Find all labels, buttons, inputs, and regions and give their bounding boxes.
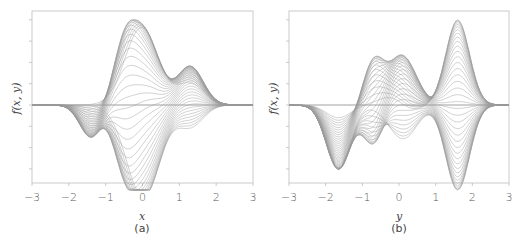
- xtick-label: 3: [506, 191, 513, 204]
- ylabel-a: f(x, y): [10, 79, 23, 119]
- panel-b: f(x, y) −3−2−10123 y (b): [263, 0, 526, 250]
- curve: [32, 25, 253, 127]
- curve: [289, 58, 509, 160]
- xtick-label: −2: [318, 191, 334, 204]
- curve: [289, 56, 509, 158]
- curve: [32, 105, 253, 190]
- plot-frame: [289, 11, 509, 183]
- xtick-label: −1: [354, 191, 370, 204]
- curve: [32, 86, 253, 158]
- curve: [32, 105, 253, 190]
- xtick-label: −1: [98, 191, 114, 204]
- curve: [32, 105, 253, 190]
- curve: [32, 98, 253, 185]
- curve: [32, 79, 253, 138]
- curve: [32, 22, 253, 125]
- curve: [32, 105, 253, 190]
- curve: [32, 65, 253, 135]
- curve: [32, 105, 253, 190]
- curve: [289, 20, 509, 118]
- plot-a: [0, 0, 263, 250]
- plot-b: [263, 0, 526, 250]
- xtick-label: 1: [432, 191, 439, 204]
- caption-a: (a): [134, 222, 149, 235]
- curve: [289, 21, 509, 123]
- curve: [32, 41, 253, 132]
- xtick-label: −2: [61, 191, 77, 204]
- ylabel-b: f(x, y): [267, 79, 280, 119]
- xtick-label: −3: [24, 191, 40, 204]
- curve: [32, 105, 253, 190]
- xtick-label: 1: [176, 191, 183, 204]
- curve: [32, 48, 253, 133]
- curve: [32, 105, 253, 190]
- xtick-label: 0: [139, 191, 146, 204]
- panel-a: f(x, y) −3−2−10123 x (a): [0, 0, 263, 250]
- curve: [32, 21, 253, 115]
- xtick-label: 2: [469, 191, 476, 204]
- curve: [289, 56, 509, 151]
- xtick-label: 3: [250, 191, 257, 204]
- curve: [32, 26, 253, 108]
- curve: [289, 59, 509, 147]
- xtick-label: −3: [281, 191, 297, 204]
- curve: [32, 105, 253, 190]
- curve: [32, 24, 253, 110]
- curve: [289, 27, 509, 130]
- curve: [32, 95, 253, 179]
- caption-b: (b): [391, 222, 407, 235]
- plot-frame: [32, 11, 253, 183]
- xtick-label: 0: [396, 191, 403, 204]
- curve: [32, 34, 253, 130]
- curve: [32, 56, 253, 134]
- curve: [32, 104, 253, 190]
- xtick-label: 2: [213, 191, 220, 204]
